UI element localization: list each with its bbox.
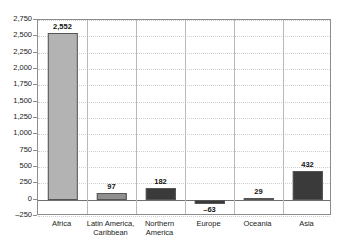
- y-axis-tick-label: 1,250: [0, 113, 32, 121]
- bar-group[interactable]: 432: [283, 20, 332, 214]
- bar-group[interactable]: 97: [87, 20, 136, 214]
- y-axis-tick-label: 750: [0, 146, 32, 154]
- y-axis-tick-label: 1,500: [0, 97, 32, 105]
- bar-value-label: –63: [203, 206, 216, 214]
- y-axis-tick-label: 1,000: [0, 130, 32, 138]
- bar-value-label: 182: [154, 178, 167, 186]
- bar-value-label: 2,552: [53, 23, 72, 31]
- bar[interactable]: [96, 193, 126, 199]
- bar[interactable]: [47, 33, 77, 200]
- bar-group[interactable]: 182: [136, 20, 185, 214]
- bar[interactable]: [145, 188, 175, 200]
- x-axis-tick-label: Asia: [282, 219, 331, 228]
- y-axis-tick-label: 0: [0, 195, 32, 203]
- y-axis-tick-label: 500: [0, 162, 32, 170]
- y-axis-tick-label: 2,750: [0, 15, 32, 23]
- plot-area: 2,55297182–6329432: [37, 19, 331, 215]
- y-axis-tick-label: 2,500: [0, 32, 32, 40]
- gridline-horizontal: [38, 216, 330, 217]
- x-axis-tick-label: Oceania: [233, 219, 282, 228]
- x-axis-tick-label: Northern America: [135, 219, 184, 238]
- bar[interactable]: [194, 200, 224, 204]
- bar-value-label: 432: [301, 161, 314, 169]
- y-axis-tick-label: 250: [0, 179, 32, 187]
- bar[interactable]: [243, 198, 273, 200]
- y-axis-tick-label: 2,000: [0, 64, 32, 72]
- bar-group[interactable]: 29: [234, 20, 283, 214]
- x-axis-tick-label: Latin America, Caribbean: [86, 219, 135, 238]
- y-axis-tick-label: –250: [0, 211, 32, 219]
- bar-value-label: 29: [254, 188, 262, 196]
- bar-group[interactable]: –63: [185, 20, 234, 214]
- bar-group[interactable]: 2,552: [38, 20, 87, 214]
- y-axis-tick-label: 1,750: [0, 81, 32, 89]
- bar-value-label: 97: [107, 183, 115, 191]
- x-axis-tick-label: Africa: [37, 219, 86, 228]
- x-axis-tick-label: Europe: [184, 219, 233, 228]
- bar[interactable]: [292, 171, 322, 199]
- y-axis-tick-label: 2,250: [0, 48, 32, 56]
- y-axis-tick-mark: [33, 215, 37, 216]
- bar-chart: 2,7502,5002,2502,0001,7501,5001,2501,000…: [0, 0, 350, 241]
